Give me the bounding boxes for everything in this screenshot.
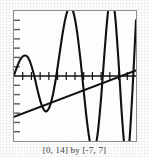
graph-figure: [0, 14] by [-7, 7]: [0, 0, 149, 157]
x-axis: [14, 72, 136, 80]
plot-canvas: [14, 11, 136, 141]
plot-frame: [13, 10, 137, 142]
figure-caption: [0, 14] by [-7, 7]: [0, 145, 149, 156]
